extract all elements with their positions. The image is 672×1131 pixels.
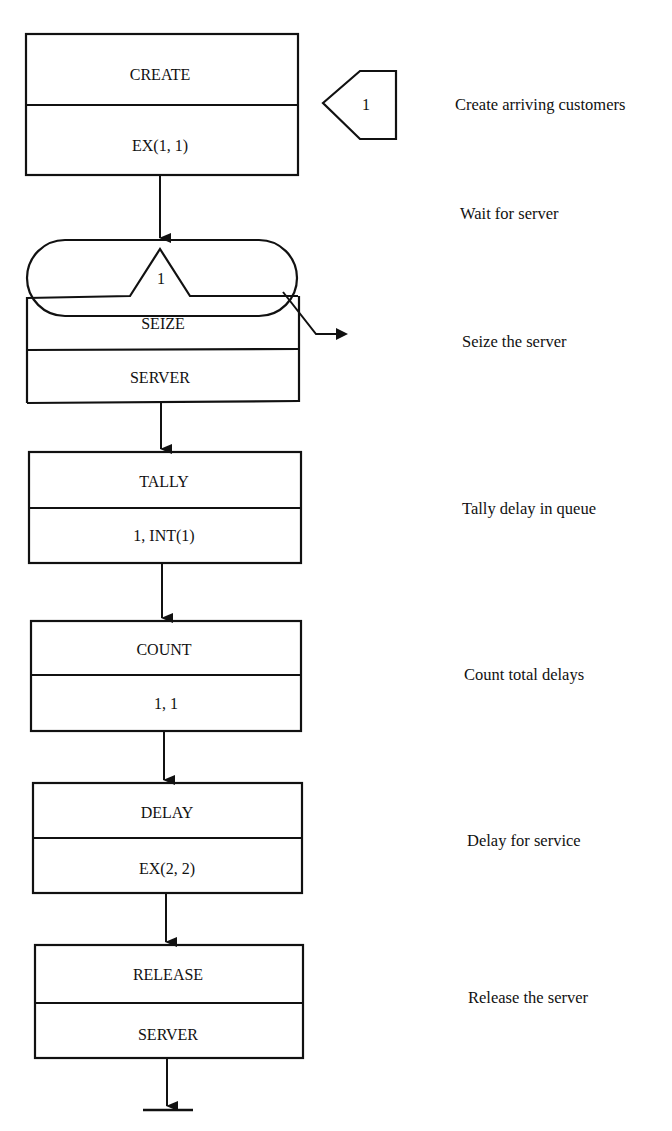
description-queue: Wait for server <box>460 204 559 223</box>
delay-node: DELAY EX(2, 2) <box>33 783 302 893</box>
description-release: Release the server <box>468 988 589 1007</box>
description-count: Count total delays <box>464 665 584 684</box>
description-delay: Delay for service <box>467 831 581 850</box>
delay-node-title: DELAY <box>141 804 194 821</box>
delay-node-param: EX(2, 2) <box>139 860 195 878</box>
description-tally: Tally delay in queue <box>462 499 596 518</box>
count-node-param: 1, 1 <box>154 695 178 712</box>
tally-node-param: 1, INT(1) <box>133 527 194 545</box>
create-node-title: CREATE <box>130 66 190 83</box>
release-node: RELEASE SERVER <box>35 945 303 1058</box>
release-node-title: RELEASE <box>133 966 203 983</box>
release-node-param: SERVER <box>138 1026 198 1043</box>
seize-node-param: SERVER <box>130 369 190 386</box>
description-seize: Seize the server <box>462 332 567 351</box>
tally-node-title: TALLY <box>139 473 189 490</box>
count-node-title: COUNT <box>136 641 191 658</box>
slam-network-diagram: CREATE EX(1, 1) 1 Create arriving custom… <box>0 0 672 1131</box>
create-label-node: 1 <box>323 71 396 139</box>
tally-node: TALLY 1, INT(1) <box>29 452 301 563</box>
balk-arrowhead-icon <box>336 328 348 340</box>
create-node-param: EX(1, 1) <box>132 137 188 155</box>
seize-node-title: SEIZE <box>141 315 185 332</box>
create-node: CREATE EX(1, 1) <box>26 34 298 175</box>
queue-node-number: 1 <box>157 270 165 287</box>
create-label-number: 1 <box>362 96 370 113</box>
count-node: COUNT 1, 1 <box>31 621 301 731</box>
description-create: Create arriving customers <box>455 95 625 114</box>
